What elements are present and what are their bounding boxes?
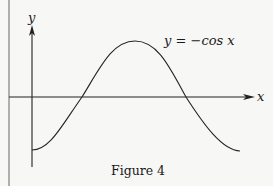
figure-caption: Figure 4 xyxy=(111,163,165,178)
x-axis-label: x xyxy=(257,89,265,104)
cosine-curve xyxy=(32,41,240,151)
figure-canvas: y x y = −cos x Figure 4 xyxy=(0,0,273,186)
y-axis-label: y xyxy=(27,10,36,25)
curve-label: y = −cos x xyxy=(163,33,235,48)
